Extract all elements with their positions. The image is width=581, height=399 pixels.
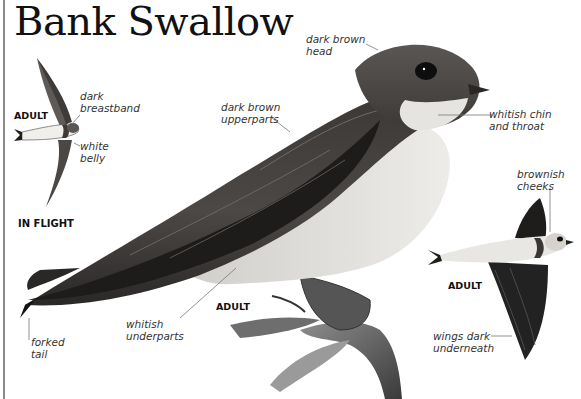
label-brownish-cheeks: brownish cheeks (517, 168, 565, 192)
field-guide-page: Bank Swallow (0, 0, 581, 399)
label-whitish-chin-throat: whitish chin and throat (489, 108, 552, 132)
label-white-belly: white belly (80, 140, 109, 164)
in-flight-bird-left (14, 58, 79, 207)
label-dark-brown-upperparts: dark brown upperparts (221, 101, 280, 125)
label-forked-tail: forked tail (31, 336, 65, 360)
label-wings-dark-underneath: wings dark underneath (433, 330, 494, 354)
main-bird-age-tag: ADULT (216, 301, 250, 312)
label-dark-breastband: dark breastband (80, 90, 140, 114)
label-dark-brown-head: dark brown head (306, 33, 365, 57)
label-whitish-underparts: whitish underparts (126, 318, 184, 342)
in-flight-age-tag: ADULT (14, 110, 48, 121)
right-bird-age-tag: ADULT (448, 280, 482, 291)
in-flight-caption: IN FLIGHT (18, 218, 74, 229)
